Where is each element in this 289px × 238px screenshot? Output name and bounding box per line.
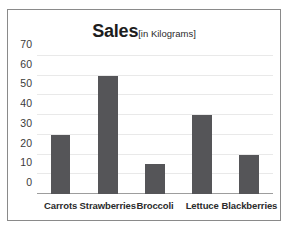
- y-axis-tick-label: 40: [20, 97, 32, 109]
- bar-group: Blackberries: [226, 56, 273, 194]
- bar: [98, 76, 118, 194]
- chart-title-main: Sales: [92, 21, 138, 41]
- y-axis-tick-label: 20: [20, 137, 32, 149]
- y-axis-tick-label: 30: [20, 117, 32, 129]
- x-axis-category-label: Strawberries: [80, 200, 136, 211]
- bar: [51, 135, 71, 194]
- x-axis-category-label: Blackberries: [221, 200, 277, 211]
- y-axis-tick-label: 0: [26, 176, 32, 188]
- bar-group: Lettuce: [179, 56, 226, 194]
- bar: [239, 155, 259, 194]
- bar: [145, 164, 165, 194]
- bar-group: Carrots: [37, 56, 84, 194]
- chart-container: Sales[in Kilograms] 010203040506070 Carr…: [7, 9, 281, 221]
- bar-group: Strawberries: [84, 56, 131, 194]
- y-axis-tick-label: 10: [20, 156, 32, 168]
- x-axis-category-label: Carrots: [44, 200, 77, 211]
- bar-group: Broccoli: [131, 56, 178, 194]
- y-axis-tick-label: 70: [20, 38, 32, 50]
- chart-title-subtitle: [in Kilograms]: [138, 28, 196, 39]
- bar: [192, 115, 212, 194]
- plot-area: 010203040506070 CarrotsStrawberriesBrocc…: [37, 56, 273, 194]
- bar-series: CarrotsStrawberriesBroccoliLettuceBlackb…: [37, 56, 273, 194]
- x-axis-category-label: Broccoli: [136, 200, 173, 211]
- chart-title: Sales[in Kilograms]: [8, 21, 280, 42]
- y-axis-tick-label: 50: [20, 77, 32, 89]
- y-axis-tick-label: 60: [20, 58, 32, 70]
- x-axis-category-label: Lettuce: [186, 200, 219, 211]
